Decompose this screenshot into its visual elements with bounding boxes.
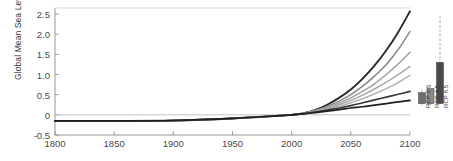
scenario-bar-label: RCP 8.5 — [443, 84, 449, 107]
axis-frame — [55, 8, 410, 135]
sea-level-chart: Global Mean Sea Level (m) 2.52.01.51.00.… — [0, 0, 453, 161]
series-line-projection-4 — [55, 66, 410, 120]
series-line-projection-3 — [55, 52, 410, 121]
scenario-bar-label: RCP 2.6 — [425, 84, 431, 107]
scenario-bar-label: RCP 4.5 — [434, 84, 440, 107]
plot-canvas — [0, 0, 453, 161]
series-line-projection-6 — [55, 91, 410, 120]
